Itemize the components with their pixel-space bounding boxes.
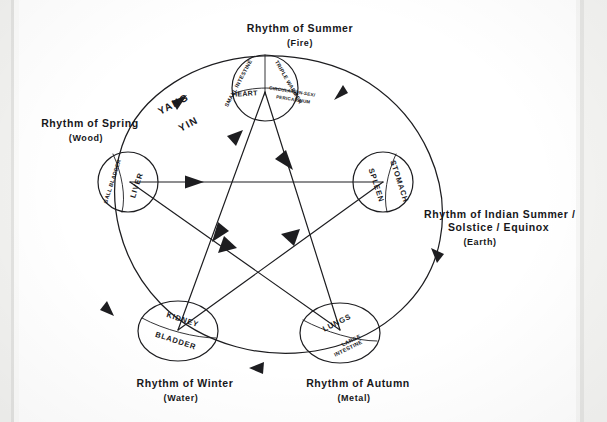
outer-cycle-circle	[115, 56, 443, 353]
outer-cycle-arrow-south	[249, 362, 264, 374]
svg-text:Rhythm of Indian Summer /: Rhythm of Indian Summer /	[424, 208, 576, 220]
svg-text:Rhythm of Summer: Rhythm of Summer	[247, 22, 353, 34]
control-line-metal-to-wood	[130, 182, 340, 330]
organ-label-liver: LIVER	[128, 171, 145, 199]
caption-winter-water: Rhythm of Winter (Water)	[137, 377, 234, 403]
svg-text:Rhythm of Spring: Rhythm of Spring	[41, 117, 139, 129]
organ-label-small-intestine: SMALL INTESTINE	[223, 58, 253, 107]
organ-label-spleen: SPLEEN	[367, 167, 386, 203]
outer-cycle-arrow-northeast	[334, 85, 348, 100]
caption-summer-fire: Rhythm of Summer (Fire)	[247, 22, 353, 48]
organ-label-gall-bladder: GALL BLADDER	[102, 159, 122, 205]
svg-text:Rhythm of Winter: Rhythm of Winter	[137, 377, 234, 389]
organ-label-lungs: LUNGS	[321, 312, 352, 333]
svg-text:Rhythm of Autumn: Rhythm of Autumn	[306, 377, 410, 389]
organ-label-stomach: STOMACH	[388, 159, 410, 203]
control-line-wood-to-earth	[130, 176, 383, 189]
svg-text:Solstice / Equinox: Solstice / Equinox	[448, 221, 549, 233]
control-line-earth-to-water	[178, 182, 383, 330]
label-yin: YIN	[177, 114, 201, 134]
svg-text:(Earth): (Earth)	[463, 237, 496, 247]
control-arrow-to-fire-upper	[227, 130, 243, 146]
label-yang: YANG	[156, 91, 191, 116]
organ-label-heart: HEART	[232, 89, 258, 97]
svg-text:(Metal): (Metal)	[337, 393, 370, 403]
caption-indian-summer-earth: Rhythm of Indian Summer / Solstice / Equ…	[424, 208, 576, 247]
svg-text:(Fire): (Fire)	[287, 38, 313, 48]
organ-label-bladder: BLADDER	[154, 330, 197, 352]
svg-text:(Water): (Water)	[164, 393, 199, 403]
five-element-diagram: SMALL INTESTINE TRIPLE WARMER HEART CIRC…	[0, 0, 607, 422]
node-water[interactable]	[138, 301, 218, 361]
outer-cycle-arrow-west	[100, 301, 114, 316]
caption-autumn-metal: Rhythm of Autumn (Metal)	[306, 377, 410, 403]
control-line-fire-to-metal	[265, 92, 340, 330]
svg-text:(Wood): (Wood)	[69, 133, 103, 143]
